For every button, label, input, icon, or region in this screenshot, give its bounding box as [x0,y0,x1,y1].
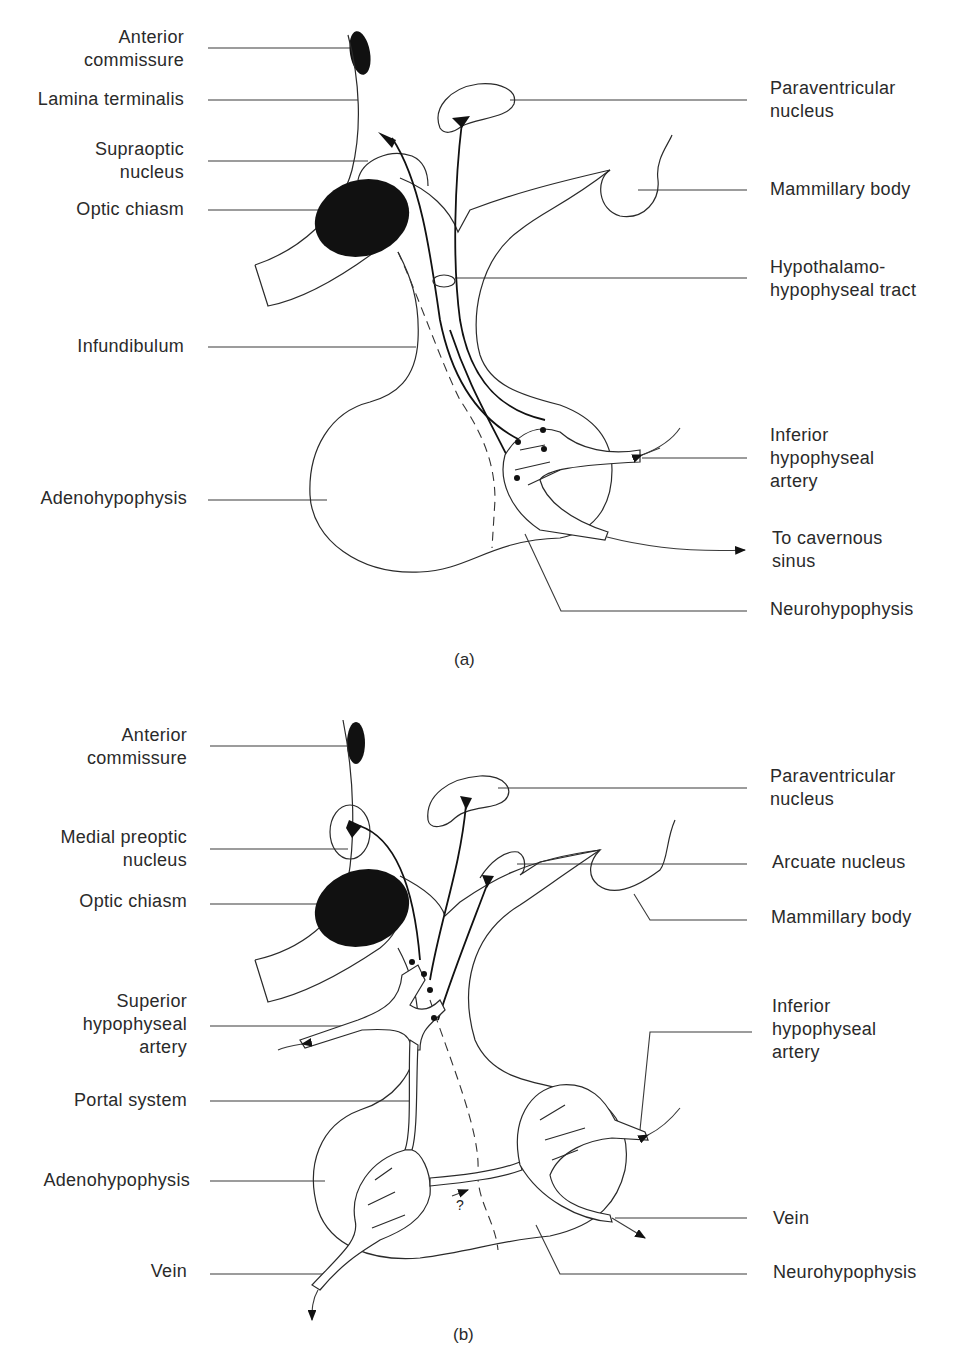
label-line: sinus [772,550,883,573]
label-line: Vein [151,1260,187,1283]
label-line: Anterior [84,26,184,49]
label-line: Mammillary body [771,906,912,929]
label-superior-hypophyseal-artery: Superior hypophyseal artery [83,990,187,1059]
label-neurohypophysis-b: Neurohypophysis [773,1261,917,1284]
anterior-commissure-shape-b [347,722,365,764]
label-line: nucleus [95,161,184,184]
label-line: Neurohypophysis [770,598,914,621]
label-mammillary-body-b: Mammillary body [771,906,912,929]
anterior-commissure-shape [346,30,373,77]
label-line: artery [772,1041,876,1064]
label-line: Inferior [772,995,876,1018]
label-line: Adenohypophysis [40,487,187,510]
label-line: Inferior [770,424,874,447]
label-lamina-terminalis: Lamina terminalis [38,88,184,111]
label-line: Optic chiasm [79,890,187,913]
label-line: hypophyseal [770,447,874,470]
label-vein-left: Vein [151,1260,187,1283]
label-mammillary-body-a: Mammillary body [770,178,911,201]
label-vein-right: Vein [773,1207,809,1230]
question-mark: ? [456,1197,464,1213]
label-line: Portal system [74,1089,187,1112]
label-line: Optic chiasm [76,198,184,221]
label-line: Paraventricular [770,77,896,100]
label-line: To cavernous [772,527,883,550]
label-line: hypophyseal [772,1018,876,1041]
label-anterior-commissure-b: Anterior commissure [87,724,187,770]
label-anterior-commissure-a: Anterior commissure [84,26,184,72]
panel-b-drawing: ? [210,720,752,1320]
label-line: Lamina terminalis [38,88,184,111]
label-line: Infundibulum [77,335,184,358]
label-optic-chiasm-a: Optic chiasm [76,198,184,221]
label-supraoptic-nucleus: Supraoptic nucleus [95,138,184,184]
label-line: Supraoptic [95,138,184,161]
caption-a: (a) [454,650,475,670]
caption-b: (b) [453,1325,474,1345]
label-arcuate-nucleus: Arcuate nucleus [772,851,906,874]
optic-chiasm-shape [305,167,420,269]
label-medial-preoptic-nucleus: Medial preoptic nucleus [60,826,187,872]
panel-a-drawing [208,30,747,611]
label-line: hypophyseal tract [770,279,916,302]
label-inferior-hypophyseal-artery-a: Inferior hypophyseal artery [770,424,874,493]
label-inferior-hypophyseal-artery-b: Inferior hypophyseal artery [772,995,876,1064]
label-line: Anterior [87,724,187,747]
label-line: Hypothalamo- [770,256,916,279]
label-line: Mammillary body [770,178,911,201]
label-infundibulum: Infundibulum [77,335,184,358]
label-line: nucleus [60,849,187,872]
label-line: artery [83,1036,187,1059]
label-to-cavernous-sinus: To cavernous sinus [772,527,883,573]
label-neurohypophysis-a: Neurohypophysis [770,598,914,621]
label-hypothalamo-hypophyseal-tract: Hypothalamo- hypophyseal tract [770,256,916,302]
label-line: commissure [87,747,187,770]
label-optic-chiasm-b: Optic chiasm [79,890,187,913]
label-line: Arcuate nucleus [772,851,906,874]
label-adenohypophysis-b: Adenohypophysis [43,1169,190,1192]
label-line: artery [770,470,874,493]
label-line: Medial preoptic [60,826,187,849]
label-line: Neurohypophysis [773,1261,917,1284]
label-line: hypophyseal [83,1013,187,1036]
label-portal-system: Portal system [74,1089,187,1112]
label-line: Superior [83,990,187,1013]
label-line: Paraventricular [770,765,896,788]
label-paraventricular-nucleus-b: Paraventricular nucleus [770,765,896,811]
label-line: Adenohypophysis [43,1169,190,1192]
label-adenohypophysis-a: Adenohypophysis [40,487,187,510]
label-line: Vein [773,1207,809,1230]
label-line: commissure [84,49,184,72]
panel-a-leader-lines [208,48,747,611]
label-line: nucleus [770,788,896,811]
label-paraventricular-nucleus-a: Paraventricular nucleus [770,77,896,123]
label-line: nucleus [770,100,896,123]
